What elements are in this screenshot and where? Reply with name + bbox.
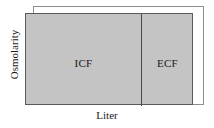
y-axis-label: Osmolarity bbox=[9, 13, 20, 97]
fluid-compartment-block: ICF ECF bbox=[25, 13, 193, 105]
x-axis-label: Liter bbox=[0, 110, 214, 121]
plot-area: ICF ECF Osmolarity Liter bbox=[0, 0, 214, 128]
osmolarity-volume-diagram: ICF ECF Osmolarity Liter bbox=[0, 0, 214, 128]
compartment-label-ecf: ECF bbox=[142, 58, 193, 69]
compartment-label-icf: ICF bbox=[26, 58, 141, 69]
